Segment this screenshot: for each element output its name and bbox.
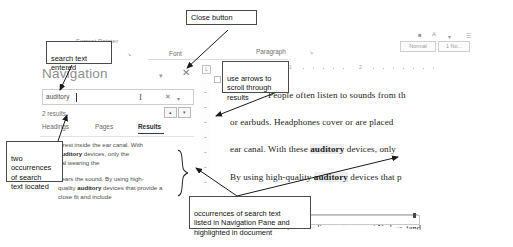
- document-line-4-post: devices that p: [348, 172, 402, 182]
- callout-close-button-text: Close button: [191, 13, 233, 22]
- paragraph-dialog-launcher[interactable]: ↘: [309, 49, 313, 55]
- result-2-match-term: auditory: [77, 184, 101, 191]
- tab-results[interactable]: Results: [138, 123, 161, 130]
- arrow-up-icon: ▴: [169, 109, 172, 115]
- document-line-3-post: devices, only: [344, 144, 396, 154]
- screenshot-root: Format Painter ↘ Font Paragraph ↘ ■ A ▾ …: [0, 0, 513, 247]
- result-1-line-3-text: ual wearing the: [58, 159, 99, 166]
- highlighted-match-2: auditory: [314, 172, 348, 182]
- highlight-icon[interactable]: ■: [418, 32, 422, 38]
- tab-stop-selector-icon[interactable]: L: [202, 65, 211, 74]
- result-2-line-3[interactable]: close fit and include: [58, 193, 190, 202]
- clear-search-icon[interactable]: ✕: [165, 93, 171, 101]
- style-normal-label: Normal: [409, 43, 426, 49]
- callout-use-arrows: use arrows to scroll through results: [222, 61, 289, 93]
- highlighted-match-1: auditory: [310, 144, 344, 154]
- clipboard-dialog-launcher[interactable]: ↘: [127, 51, 131, 57]
- paragraph-group-label: Paragraph: [256, 48, 286, 55]
- result-2-line-2-pre: quality: [58, 184, 77, 191]
- callout-two-occurrences: two occurrences of search text located: [6, 141, 63, 182]
- result-2-line-2-post: devices that provide a: [101, 184, 162, 191]
- next-result-button[interactable]: ▾: [178, 107, 191, 118]
- document-line-4-pre: By using high-quality: [230, 172, 314, 182]
- style-gallery-normal[interactable]: Normal: [400, 41, 436, 52]
- tab-results-underline: [138, 133, 164, 134]
- list-item[interactable]: s rest inside the ear canal. With: [58, 141, 190, 150]
- result-1-line-2-post: devices, only the: [82, 150, 129, 157]
- chevron-down-icon[interactable]: ▾: [448, 33, 451, 40]
- page-boundary-marker-icon: [214, 76, 221, 83]
- list-item[interactable]: hears the sound. By using high-: [58, 175, 190, 184]
- callout-occurrences-listed: occurrences of search text listed in Nav…: [189, 196, 311, 229]
- result-2-line-1: hears the sound. By using high-: [58, 175, 144, 182]
- callout-occurrences-listed-text: occurrences of search text listed in Nav…: [194, 209, 290, 237]
- search-input-value: auditory: [46, 93, 70, 100]
- document-paragraph-4[interactable]: By using high-quality auditory devices t…: [230, 172, 402, 182]
- result-1-line-3[interactable]: ual wearing the: [58, 159, 190, 168]
- ribbon-divider: [148, 59, 288, 60]
- font-group-label: Font: [169, 50, 182, 57]
- callout-search-text-entered: search text entered: [46, 41, 112, 64]
- document-paragraph-2[interactable]: or earbuds. Headphones cover or are plac…: [230, 117, 394, 127]
- ruler-number-2: 2: [359, 64, 362, 70]
- previous-result-button[interactable]: ▴: [164, 107, 177, 118]
- style-gallery-nospacing[interactable]: 1 No...: [438, 41, 470, 52]
- result-1-line-2-wrap[interactable]: auditory devices, only the: [58, 150, 190, 159]
- navigation-tabs: Headings Pages Results: [40, 123, 194, 136]
- tab-pages[interactable]: Pages: [95, 123, 113, 130]
- tab-headings[interactable]: Headings: [42, 123, 69, 130]
- style-nospacing-label: 1 No...: [446, 43, 462, 49]
- navigation-options-chevron-down-icon[interactable]: ▾: [159, 72, 163, 80]
- callout-close-button: Close button: [186, 10, 257, 25]
- arrow-down-icon: ▾: [183, 109, 186, 115]
- callout-two-occurrences-text: two occurrences of search text located: [11, 154, 51, 192]
- result-1-line-1: s rest inside the ear canal. With: [58, 141, 143, 148]
- results-count-label: 2 results: [42, 110, 66, 117]
- ibeam-pointer-icon: I: [139, 92, 142, 102]
- footnote-resize-handle[interactable]: [413, 213, 416, 218]
- result-2-line-3-text: close fit and include: [58, 193, 112, 200]
- search-input[interactable]: auditory I ✕ ▾: [42, 89, 194, 105]
- text-cursor: [76, 93, 77, 102]
- document-paragraph-3[interactable]: ear canal. With these auditory devices, …: [230, 144, 396, 154]
- document-line-3-pre: ear canal. With these: [230, 144, 310, 154]
- list-icon[interactable]: ☰: [466, 32, 471, 39]
- navigation-close-icon[interactable]: ✕: [182, 68, 190, 78]
- tabs-divider: [40, 136, 194, 137]
- ruler-number-1: 1: [289, 64, 292, 70]
- font-color-icon[interactable]: A: [432, 31, 436, 37]
- document-line-2-text: or earbuds. Headphones cover or are plac…: [230, 117, 394, 127]
- result-2-line-2-wrap[interactable]: quality auditory devices that provide a: [58, 184, 190, 193]
- search-options-chevron-down-icon[interactable]: ▾: [177, 95, 180, 102]
